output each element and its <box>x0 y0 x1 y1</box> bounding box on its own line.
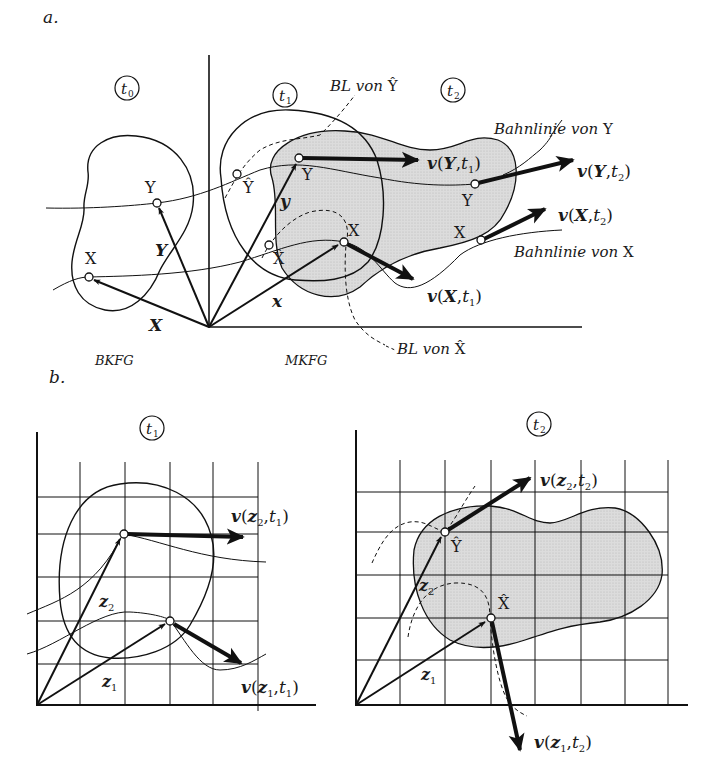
label-mkfg: MKFG <box>284 353 327 368</box>
svg-text:t: t <box>146 420 153 438</box>
label-bkfg: BKFG <box>94 353 134 368</box>
annotation-bl-y-hat: BL von Ŷ <box>329 77 399 95</box>
label-z2-left: z2 <box>98 592 114 613</box>
svg-text:t: t <box>279 87 286 105</box>
point-X-t1 <box>340 238 348 246</box>
label-v-z1-t1: v(z1,t1) <box>241 677 299 699</box>
panel-b: b. t 1 <box>27 367 688 754</box>
label-z1-left: z1 <box>101 672 117 693</box>
svg-text:t: t <box>447 82 454 100</box>
point-z2-t1 <box>120 530 128 538</box>
time-marker-t1: t 1 <box>273 83 297 107</box>
label-v-X-t1: v(X,t1) <box>427 286 482 308</box>
body-reference <box>72 136 194 311</box>
label-vector-Y: Y <box>155 240 169 260</box>
bl-x-hat-leader <box>386 346 395 350</box>
panel-a-label: a. <box>43 7 59 27</box>
label-v-z2-t1: v(z2,t1) <box>231 506 289 528</box>
time-marker-t2: t 2 <box>441 78 465 102</box>
label-z1-right: z1 <box>420 665 436 686</box>
time-marker-t0: t 0 <box>115 76 139 100</box>
label-vector-y: y <box>279 191 291 211</box>
label-Y-ref: Y <box>144 178 156 197</box>
label-Y-t1: Y <box>301 165 313 184</box>
point-Y-t2 <box>471 180 479 188</box>
label-Y-t2: Y <box>461 191 473 210</box>
grid-left <box>37 462 258 711</box>
point-X-ref <box>85 273 93 281</box>
panel-b-left: t 1 <box>27 416 316 711</box>
label-X-t1: X <box>348 221 360 240</box>
point-Y-hat-t2 <box>441 528 449 536</box>
label-vector-x: x <box>271 291 283 311</box>
svg-text:t: t <box>121 80 128 98</box>
label-v-Y-t2: v(Y,t2) <box>577 161 631 183</box>
vector-z1-right <box>356 622 485 705</box>
label-vector-X: X <box>148 315 163 335</box>
svg-text:2: 2 <box>454 91 460 101</box>
point-Y-hat <box>233 170 241 178</box>
panel-b-right: t 2 <box>355 412 688 754</box>
svg-text:t: t <box>533 416 540 434</box>
label-X-hat: X̂ <box>273 249 285 268</box>
label-Y-hat: Ŷ <box>242 177 254 197</box>
velocity-Y-t1 <box>302 158 418 160</box>
label-v-z1-t2: v(z1,t2) <box>534 732 592 754</box>
annotation-pathline-x: Bahnlinie von X <box>513 243 634 261</box>
svg-text:2: 2 <box>540 425 546 435</box>
svg-text:1: 1 <box>286 96 292 106</box>
time-marker-b-t2: t 2 <box>527 412 551 436</box>
label-v-z2-t2: v(z2,t2) <box>540 470 598 492</box>
annotation-bl-x-hat: BL von X̂ <box>396 340 466 358</box>
label-X-ref: X <box>85 249 97 268</box>
label-X-t2: X <box>454 223 466 242</box>
svg-text:1: 1 <box>153 429 159 439</box>
point-z1-t1 <box>166 617 174 625</box>
velocity-z1-t1 <box>174 624 241 663</box>
annotation-pathline-y: Bahnlinie von Y <box>493 120 614 138</box>
point-X-hat <box>265 241 273 249</box>
svg-text:0: 0 <box>128 89 134 99</box>
point-X-hat-t2 <box>487 614 495 622</box>
label-Y-hat-t2: Ŷ <box>450 536 462 556</box>
time-marker-b-t1: t 1 <box>140 416 164 440</box>
kinematics-figure: a. t 0 t 1 t 2 <box>0 0 715 781</box>
point-Y-t1 <box>295 154 303 162</box>
point-X-t2 <box>477 236 485 244</box>
panel-b-label: b. <box>49 367 65 387</box>
panel-a: a. t 0 t 1 t 2 <box>43 7 634 368</box>
label-X-hat-t2: X̂ <box>498 594 510 613</box>
label-v-X-t2: v(X,t2) <box>558 205 613 227</box>
point-Y-ref <box>153 199 161 207</box>
